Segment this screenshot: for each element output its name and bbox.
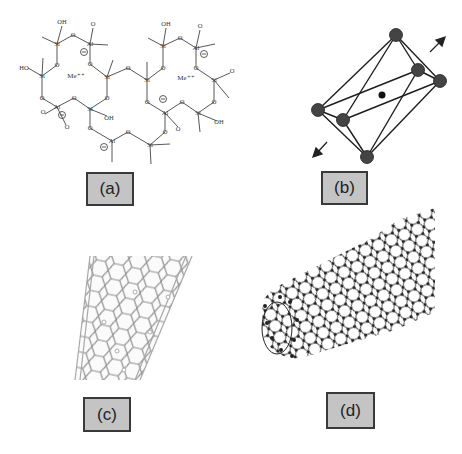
svg-text:O: O bbox=[145, 98, 150, 105]
panel-d-label: (d) bbox=[326, 392, 375, 429]
carbon-nanotube-light-diagram bbox=[70, 250, 200, 385]
svg-text:O: O bbox=[194, 64, 199, 71]
svg-text:OH: OH bbox=[104, 114, 114, 121]
svg-text:Si: Si bbox=[147, 141, 153, 148]
svg-text:Si: Si bbox=[104, 73, 110, 80]
svg-text:OH: OH bbox=[57, 18, 67, 25]
svg-text:Si: Si bbox=[87, 105, 93, 112]
svg-text:Me⁺⁺: Me⁺⁺ bbox=[67, 72, 84, 80]
svg-text:O: O bbox=[180, 98, 185, 105]
svg-text:Al: Al bbox=[87, 40, 94, 47]
svg-text:O: O bbox=[212, 98, 217, 105]
panel-c-carbon-nanotube bbox=[70, 250, 200, 385]
svg-text:O: O bbox=[126, 64, 131, 71]
svg-text:Si: Si bbox=[144, 76, 150, 83]
svg-text:O: O bbox=[71, 31, 76, 38]
svg-text:O: O bbox=[91, 20, 96, 27]
svg-text:O: O bbox=[126, 128, 131, 135]
octahedron-diagram bbox=[290, 15, 462, 170]
central-atom bbox=[379, 92, 386, 99]
svg-text:O: O bbox=[161, 64, 166, 71]
svg-text:O: O bbox=[88, 60, 93, 67]
svg-text:HO: HO bbox=[19, 64, 29, 71]
panel-a-label: (a) bbox=[86, 172, 134, 206]
svg-text:O: O bbox=[176, 125, 181, 132]
svg-text:Si: Si bbox=[195, 109, 201, 116]
svg-text:Si: Si bbox=[39, 72, 45, 79]
svg-text:Al: Al bbox=[162, 109, 169, 116]
panel-d-carbon-nanotube bbox=[255, 205, 462, 365]
svg-text:OH: OH bbox=[161, 20, 171, 27]
svg-text:Al: Al bbox=[109, 137, 116, 144]
svg-text:O: O bbox=[105, 94, 110, 101]
svg-text:OH: OH bbox=[214, 118, 224, 125]
svg-text:O: O bbox=[163, 128, 168, 135]
svg-text:O: O bbox=[88, 124, 93, 131]
svg-text:Si: Si bbox=[160, 42, 166, 49]
svg-text:O: O bbox=[198, 22, 203, 29]
svg-text:O: O bbox=[40, 94, 45, 101]
svg-text:O: O bbox=[55, 61, 60, 68]
svg-text:O: O bbox=[178, 34, 183, 41]
svg-text:Al: Al bbox=[193, 44, 200, 51]
svg-text:O: O bbox=[72, 94, 77, 101]
svg-text:Me⁺⁺: Me⁺⁺ bbox=[177, 74, 194, 82]
svg-text:Al: Al bbox=[54, 103, 61, 110]
svg-text:Si: Si bbox=[211, 76, 217, 83]
svg-text:O: O bbox=[41, 108, 46, 115]
panel-b-octahedron bbox=[290, 15, 462, 170]
svg-text:Si: Si bbox=[54, 40, 60, 47]
carbon-nanotube-ball-stick-diagram bbox=[255, 205, 462, 365]
panel-a-aluminosilicate-structure: OHO OHO HOO OO OHO OH OOO OOOO OOO OOO O… bbox=[10, 10, 240, 170]
svg-text:O: O bbox=[65, 123, 70, 130]
panel-b-label: (b) bbox=[321, 171, 368, 205]
aluminosilicate-diagram: OHO OHO HOO OO OHO OH OOO OOOO OOO OOO O… bbox=[10, 10, 240, 170]
svg-text:O: O bbox=[230, 67, 235, 74]
panel-c-label: (c) bbox=[83, 397, 131, 432]
